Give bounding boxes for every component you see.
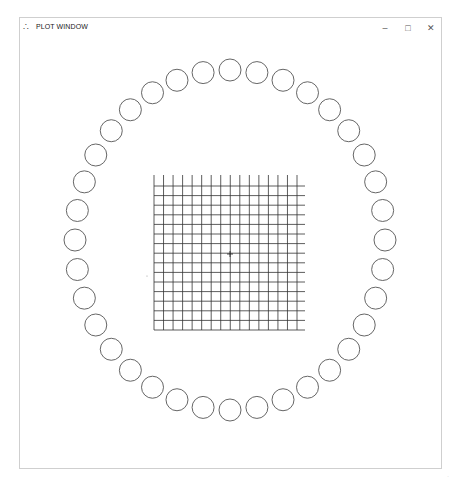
stray-dot	[146, 275, 147, 276]
ring-circle	[219, 59, 241, 81]
ring-circle	[372, 199, 394, 221]
ring-circle	[119, 359, 141, 381]
ring-circle	[297, 376, 319, 398]
ring-circle	[219, 399, 241, 421]
ring-circle	[166, 389, 188, 411]
ring-circle	[365, 171, 387, 193]
ring-circle	[85, 314, 107, 336]
corner-mark: ·	[447, 473, 449, 479]
ring-circle	[166, 69, 188, 91]
ring-circle	[297, 82, 319, 104]
ring-circle	[142, 376, 164, 398]
ring-circle	[272, 69, 294, 91]
ring-circle	[372, 259, 394, 281]
ring-circle	[119, 99, 141, 121]
ring-circle	[246, 62, 268, 84]
ring-circle	[192, 396, 214, 418]
ring-circle	[100, 338, 122, 360]
ring-circle	[338, 120, 360, 142]
ring-circle	[353, 314, 375, 336]
ring-circle	[246, 396, 268, 418]
ring-circle	[272, 389, 294, 411]
ring-circle	[85, 144, 107, 166]
ring-circle	[319, 99, 341, 121]
ring-circle	[64, 229, 86, 251]
ring-circle	[73, 287, 95, 309]
ring-circle	[66, 259, 88, 281]
ring-circle	[73, 171, 95, 193]
ring-circle	[374, 229, 396, 251]
ring-circle	[100, 120, 122, 142]
ring-circle	[192, 62, 214, 84]
ring-circle	[142, 82, 164, 104]
ring-circle	[66, 199, 88, 221]
ring-circle	[319, 359, 341, 381]
ring-circle	[353, 144, 375, 166]
ring-circle	[338, 338, 360, 360]
ring-circle	[365, 287, 387, 309]
plot-canvas[interactable]	[0, 0, 457, 487]
